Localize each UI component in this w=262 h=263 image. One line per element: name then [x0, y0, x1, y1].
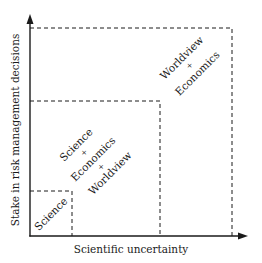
- x-axis-arrow-icon: [238, 233, 248, 240]
- region-worldview-economics-label: Worldview + Economics: [157, 33, 222, 98]
- y-axis-label: Stake in risk management decisions: [9, 34, 21, 227]
- svg-text:Science: Science: [32, 195, 70, 233]
- risk-management-diagram: Scientific uncertainty Stake in risk man…: [0, 0, 262, 263]
- region-science-economics-worldview-label: Science + Economics + Worldview: [53, 118, 134, 199]
- region-science-label: Science: [32, 195, 70, 233]
- x-axis-label: Scientific uncertainty: [74, 243, 189, 255]
- y-axis-arrow-icon: [27, 14, 34, 24]
